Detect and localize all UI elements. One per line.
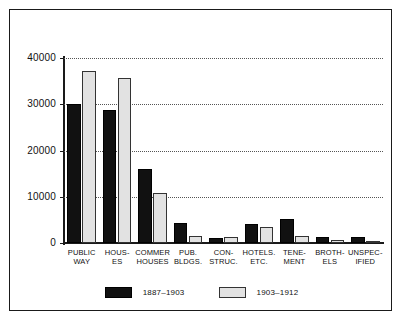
bar-series2 <box>153 193 167 243</box>
legend-label: 1903–1912 <box>257 288 299 297</box>
y-axis-tick-mark <box>60 243 64 244</box>
bar-series2 <box>260 227 274 243</box>
y-axis-tick-label: 0 <box>10 237 56 248</box>
bar-series2 <box>189 236 203 243</box>
gridline <box>64 58 383 59</box>
legend-swatch-dark <box>105 287 132 298</box>
y-axis-tick-label: 10000 <box>10 191 56 202</box>
y-axis-tick-label: 30000 <box>10 98 56 109</box>
legend-label: 1887–1903 <box>143 288 185 297</box>
y-axis-tick-label: 20000 <box>10 145 56 156</box>
chart-figure: 010000200003000040000 PUBLIC WAYHOUS- ES… <box>0 0 404 324</box>
plot-area <box>64 58 383 243</box>
bar-series1 <box>245 224 259 243</box>
legend-entry: 1903–1912 <box>219 287 299 298</box>
bar-series2 <box>82 71 96 243</box>
bar-series2 <box>224 237 238 243</box>
y-axis-tick-label: 40000 <box>10 52 56 63</box>
bar-series1 <box>67 104 81 243</box>
bar-series2 <box>366 241 380 243</box>
legend-swatch-light <box>219 287 246 298</box>
bar-series1 <box>174 223 188 243</box>
chart-legend: 1887–19031903–1912 <box>10 287 393 298</box>
gridline <box>64 104 383 105</box>
bar-series1 <box>209 238 223 243</box>
bar-series2 <box>331 240 345 243</box>
bar-series1 <box>103 110 117 243</box>
bar-series2 <box>118 78 132 243</box>
bar-series1 <box>138 169 152 243</box>
x-axis-category-label: UNSPEC- IFIED <box>344 248 387 266</box>
figure-frame: 010000200003000040000 PUBLIC WAYHOUS- ES… <box>9 9 392 311</box>
bar-series1 <box>316 237 330 243</box>
legend-entry: 1887–1903 <box>105 287 185 298</box>
bar-series2 <box>295 236 309 243</box>
bar-series1 <box>351 237 365 243</box>
bar-series1 <box>280 219 294 244</box>
